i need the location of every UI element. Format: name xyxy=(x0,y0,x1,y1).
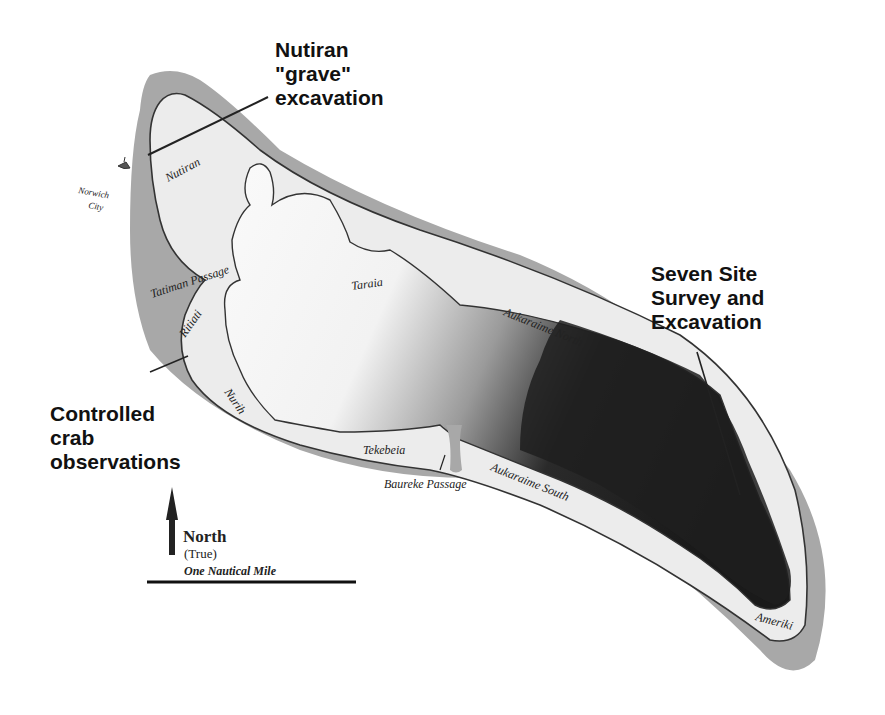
place-norwich-city-1: Norwich xyxy=(77,185,111,200)
callout-seven-site-survey: Seven Site Survey and Excavation xyxy=(651,262,764,334)
north-arrow-sublabel: (True) xyxy=(184,546,217,562)
place-tekebeia: Tekebeia xyxy=(363,443,405,457)
place-norwich-city-2: City xyxy=(88,200,105,212)
scale-bar-label: One Nautical Mile xyxy=(184,564,276,579)
shipwreck-icon xyxy=(118,157,130,169)
north-arrow-label: North xyxy=(183,527,226,547)
callout-controlled-crab-observations: Controlled crab observations xyxy=(50,402,181,474)
place-baureke-passage: Baureke Passage xyxy=(384,477,467,491)
north-arrow-icon xyxy=(166,487,178,555)
callout-nutiran-grave-excavation: Nutiran "grave" excavation xyxy=(275,38,384,110)
map-graphic: Nutiran Norwich City Tatiman Passage Rit… xyxy=(0,0,885,715)
atoll-map: Nutiran Norwich City Tatiman Passage Rit… xyxy=(0,0,885,715)
